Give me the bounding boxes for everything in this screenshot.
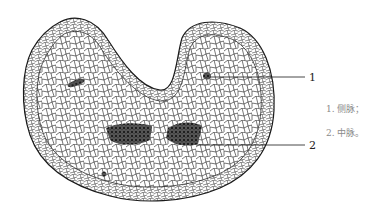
legend: 1. 侧脉； 2. 中脉。 — [326, 97, 364, 145]
legend-item-midvein: 2. 中脉。 — [326, 121, 364, 145]
section-outline — [23, 18, 274, 201]
legend-item-lateral-vein: 1. 侧脉； — [326, 97, 364, 121]
cross-section-diagram — [0, 0, 378, 222]
label-2: 2 — [309, 140, 316, 151]
lateral-vein-right — [203, 73, 211, 80]
midvein-bundle-left — [106, 123, 152, 144]
label-1: 1 — [309, 72, 316, 83]
